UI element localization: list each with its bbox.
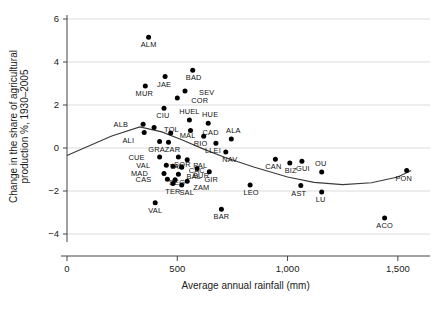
point-label-ZAR: ZAR — [165, 145, 180, 154]
y-tick-label-4: 4 — [54, 56, 59, 67]
y-tick-label--2: −2 — [48, 185, 59, 196]
data-point-AST[interactable] — [298, 183, 303, 188]
data-point-ALM[interactable] — [146, 35, 151, 40]
point-label-HUE: HUE — [202, 110, 218, 119]
data-point-CAC[interactable] — [179, 165, 184, 170]
data-point-COR[interactable] — [175, 95, 180, 100]
point-label-VAL: VAL — [148, 206, 162, 215]
point-label-ALA: ALA — [226, 126, 241, 135]
data-point-VAL[interactable] — [164, 163, 169, 168]
y-axis-title: Change in the share of agriculturalprodu… — [8, 50, 30, 203]
x-tick-label-1000: 1,000 — [276, 263, 300, 274]
data-point-ZAR[interactable] — [166, 140, 171, 145]
data-point-NAV[interactable] — [223, 149, 228, 154]
data-point-CIU[interactable] — [162, 106, 167, 111]
data-point-SEV[interactable] — [183, 89, 188, 94]
point-label-PON: PON — [395, 174, 412, 183]
data-point-GUI[interactable] — [299, 159, 304, 164]
point-label-SAL: SAL — [179, 188, 194, 197]
data-point-SOR[interactable] — [176, 155, 181, 160]
point-label-CAS: CAS — [136, 175, 152, 184]
point-label-MUR: MUR — [136, 89, 153, 98]
data-point-GIR[interactable] — [207, 169, 212, 174]
data-point-BAL[interactable] — [176, 172, 181, 177]
point-label-CIU: CIU — [156, 111, 169, 120]
point-label-NAV: NAV — [222, 155, 237, 164]
point-label-ALI: ALI — [122, 136, 134, 145]
y-tick-label-6: 6 — [54, 13, 59, 24]
data-point-JAE[interactable] — [163, 74, 168, 79]
data-point-RIO[interactable] — [201, 134, 206, 139]
point-label-LLEI: LLEI — [205, 146, 221, 155]
data-point-ALB[interactable] — [141, 122, 146, 127]
data-point-LU[interactable] — [319, 190, 324, 195]
point-label-GRA: GRA — [148, 145, 165, 154]
chart-canvas: −4−2024605001,0001,500Average annual rai… — [0, 0, 435, 313]
data-point-OU[interactable] — [319, 170, 324, 175]
x-tick-label-1500: 1,500 — [386, 263, 410, 274]
data-point-LLEI[interactable] — [213, 141, 218, 146]
data-point-MAD[interactable] — [162, 171, 167, 176]
point-label-LU: LU — [316, 195, 326, 204]
point-label-BAR: BAR — [214, 212, 230, 221]
data-point-BUR[interactable] — [195, 166, 200, 171]
data-point-HUE[interactable] — [206, 121, 211, 126]
point-label-LEO: LEO — [243, 188, 258, 197]
point-label-HUEL: HUEL — [179, 107, 200, 116]
data-point-MUR[interactable] — [143, 84, 148, 89]
data-point-MAL[interactable] — [168, 130, 173, 135]
data-point-ZAM[interactable] — [185, 179, 190, 184]
data-point-GRA[interactable] — [157, 139, 162, 144]
y-tick-label--4: −4 — [48, 228, 59, 239]
data-point-CAN[interactable] — [273, 157, 278, 162]
data-point-BAR[interactable] — [219, 207, 224, 212]
x-tick-label-500: 500 — [169, 263, 185, 274]
data-point-SAL[interactable] — [179, 183, 184, 188]
point-label-TER: TER — [165, 187, 180, 196]
point-label-JAE: JAE — [157, 80, 171, 89]
data-point-PON[interactable] — [404, 168, 409, 173]
point-label-ACO: ACO — [376, 221, 393, 230]
x-axis-title: Average annual rainfall (mm) — [182, 280, 310, 291]
y-tick-label-2: 2 — [54, 99, 59, 110]
data-point-BAD[interactable] — [190, 68, 195, 73]
data-point-VAL[interactable] — [153, 200, 158, 205]
data-point-ALA[interactable] — [229, 137, 234, 142]
data-point-PAL[interactable] — [185, 157, 190, 162]
point-label-ALB: ALB — [114, 120, 129, 129]
point-label-BAD: BAD — [186, 73, 202, 82]
point-label-ZAM: ZAM — [193, 183, 209, 192]
data-point-TOL[interactable] — [152, 125, 157, 130]
point-label-AST: AST — [291, 189, 306, 198]
data-point-CUE[interactable] — [157, 155, 162, 160]
point-label-COR: COR — [191, 96, 208, 105]
y-tick-label-0: 0 — [54, 142, 59, 153]
scatter-chart: −4−2024605001,0001,500Average annual rai… — [0, 0, 435, 313]
x-tick-label-0: 0 — [64, 263, 69, 274]
point-label-CAN: CAN — [265, 162, 281, 171]
data-point-TER[interactable] — [170, 181, 175, 186]
data-point-ACO[interactable] — [382, 215, 387, 220]
data-point-BIZ[interactable] — [287, 161, 292, 166]
point-label-ALM: ALM — [141, 40, 157, 49]
point-label-OU: OU — [315, 159, 327, 168]
data-point-LEO[interactable] — [248, 183, 253, 188]
point-label-GUI: GUI — [296, 164, 310, 173]
trend-line — [67, 127, 411, 185]
data-point-HUEL[interactable] — [187, 118, 192, 123]
data-point-ALI[interactable] — [142, 130, 147, 135]
